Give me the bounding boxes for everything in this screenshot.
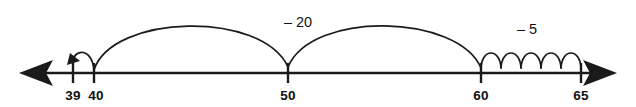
jump-arc-hop-3 [521, 53, 541, 68]
jump-arc-hop-1 [481, 53, 501, 68]
tick-label-40: 40 [88, 88, 103, 103]
number-line-svg: 39 40 50 60 65 – 20 – 5 [0, 0, 636, 107]
tick-label-39: 39 [65, 88, 80, 103]
jump-arc-50-to-60 [288, 26, 481, 68]
jump-arc-hop-2 [501, 53, 521, 68]
jump-arc-40-to-50 [94, 26, 288, 70]
number-line-figure: 39 40 50 60 65 – 20 – 5 [0, 0, 636, 107]
jump-label-minus-5: – 5 [517, 21, 537, 37]
tick-label-65: 65 [573, 88, 589, 103]
tick-label-60: 60 [473, 88, 488, 103]
jump-arc-hop-4 [541, 53, 561, 68]
tick-label-50: 50 [280, 88, 295, 103]
jump-arc-hop-5 [561, 53, 581, 68]
jump-label-minus-20: – 20 [284, 14, 312, 30]
